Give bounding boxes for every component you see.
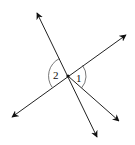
angle-diagram: 2 1 [0,0,135,145]
angle-1-label: 1 [76,72,82,84]
angle-2-label: 2 [53,69,59,81]
intersection-point [66,74,69,77]
angle-1-arc [82,66,87,89]
